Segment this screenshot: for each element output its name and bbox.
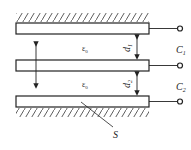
top-plate [16,23,149,34]
label-epsilon-bottom: ε0 [82,80,88,90]
terminal-middle [149,63,183,68]
label-c1: C1 [176,44,186,56]
terminal-top [149,26,183,31]
top-fixed-hatching [16,13,149,22]
label-c2: C2 [176,81,186,93]
label-area-s: S [113,129,118,140]
capacitor-diagram: d1 d2 ε0 ε0 C1 C2 S [0,0,191,150]
bottom-fixed-hatching [16,108,149,117]
label-epsilon-top: ε0 [82,44,88,54]
label-d1: d1 [121,44,133,52]
bottom-plate [16,96,149,107]
terminal-bottom [149,99,183,104]
label-d2: d2 [121,80,133,88]
